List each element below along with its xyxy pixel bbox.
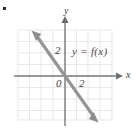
- x-axis-arrowhead: [116, 72, 123, 79]
- graph-figure: y x 0 2 2 y = f(x): [0, 0, 136, 136]
- y-tick-label-2: 2: [55, 45, 61, 56]
- origin-label: 0: [56, 78, 62, 89]
- coordinate-plane: [0, 0, 136, 136]
- x-tick-label-2: 2: [79, 78, 85, 89]
- y-axis-label: y: [64, 6, 68, 16]
- y-axis-arrowhead: [61, 16, 68, 23]
- function-equation-label: y = f(x): [72, 46, 107, 57]
- x-axis-label: x: [126, 70, 130, 80]
